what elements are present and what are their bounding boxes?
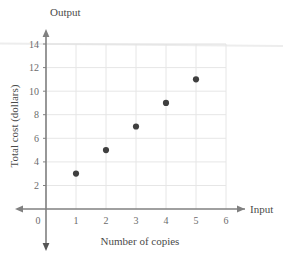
x-axis-arrow-label: Input <box>250 203 273 215</box>
y-axis <box>43 29 50 251</box>
y-axis-arrow-label: Output <box>50 6 81 18</box>
x-axis-left-arrow <box>15 206 23 213</box>
data-point <box>133 123 139 129</box>
y-axis-title: Total cost (dollars) <box>8 84 21 167</box>
y-axis-down-arrow <box>43 243 50 251</box>
y-tick-labels: 14 12 10 8 6 4 2 <box>29 39 39 192</box>
plot-svg: 14 12 10 8 6 4 2 0 1 2 3 4 5 6 Output <box>0 0 283 265</box>
x-tick-label: 6 <box>224 215 229 226</box>
y-tick-label: 14 <box>29 39 39 50</box>
data-point <box>73 171 79 177</box>
y-tick-label: 10 <box>29 86 39 97</box>
x-tick-label: 2 <box>104 215 109 226</box>
y-axis-up-arrow <box>43 29 50 37</box>
data-point <box>193 76 199 82</box>
data-point <box>103 147 109 153</box>
x-axis-title: Number of copies <box>101 235 180 247</box>
x-tick-label: 3 <box>134 215 139 226</box>
y-tick-label: 2 <box>34 180 39 191</box>
data-point <box>163 100 169 106</box>
x-tick-label: 5 <box>194 215 199 226</box>
y-tick-label: 6 <box>34 133 39 144</box>
x-tick-label: 1 <box>74 215 79 226</box>
x-tick-label: 0 <box>36 215 41 226</box>
x-tick-label: 4 <box>164 215 169 226</box>
x-axis-right-arrow <box>237 206 245 213</box>
y-tick-label: 4 <box>34 156 39 167</box>
x-axis <box>15 206 245 213</box>
x-tick-labels: 0 1 2 3 4 5 6 <box>36 215 229 226</box>
y-tick-label: 12 <box>29 62 39 73</box>
y-tick-label: 8 <box>34 109 39 120</box>
scatter-plot-figure: 14 12 10 8 6 4 2 0 1 2 3 4 5 6 Output <box>0 0 283 265</box>
